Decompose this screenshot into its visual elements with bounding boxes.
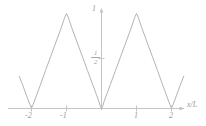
plot-figure: 1 1 2 -2 -1 1 2 x/L [0,0,206,126]
plot-canvas [0,0,206,126]
x-tick-label--2: -2 [25,112,32,120]
x-tick-label-2: 2 [169,112,173,120]
y-axis-half-numerator: 1 [91,50,100,57]
x-tick-label-1: 1 [134,112,138,120]
y-axis-half-denominator: 2 [91,59,100,66]
x-tick-label--1: -1 [60,112,67,120]
x-axis-label: x/L [187,101,197,109]
x-axis-arrow-icon [180,107,185,111]
y-axis-half-label: 1 2 [91,50,100,66]
y-axis-arrow-icon [100,8,104,13]
y-axis-top-label: 1 [92,5,96,13]
